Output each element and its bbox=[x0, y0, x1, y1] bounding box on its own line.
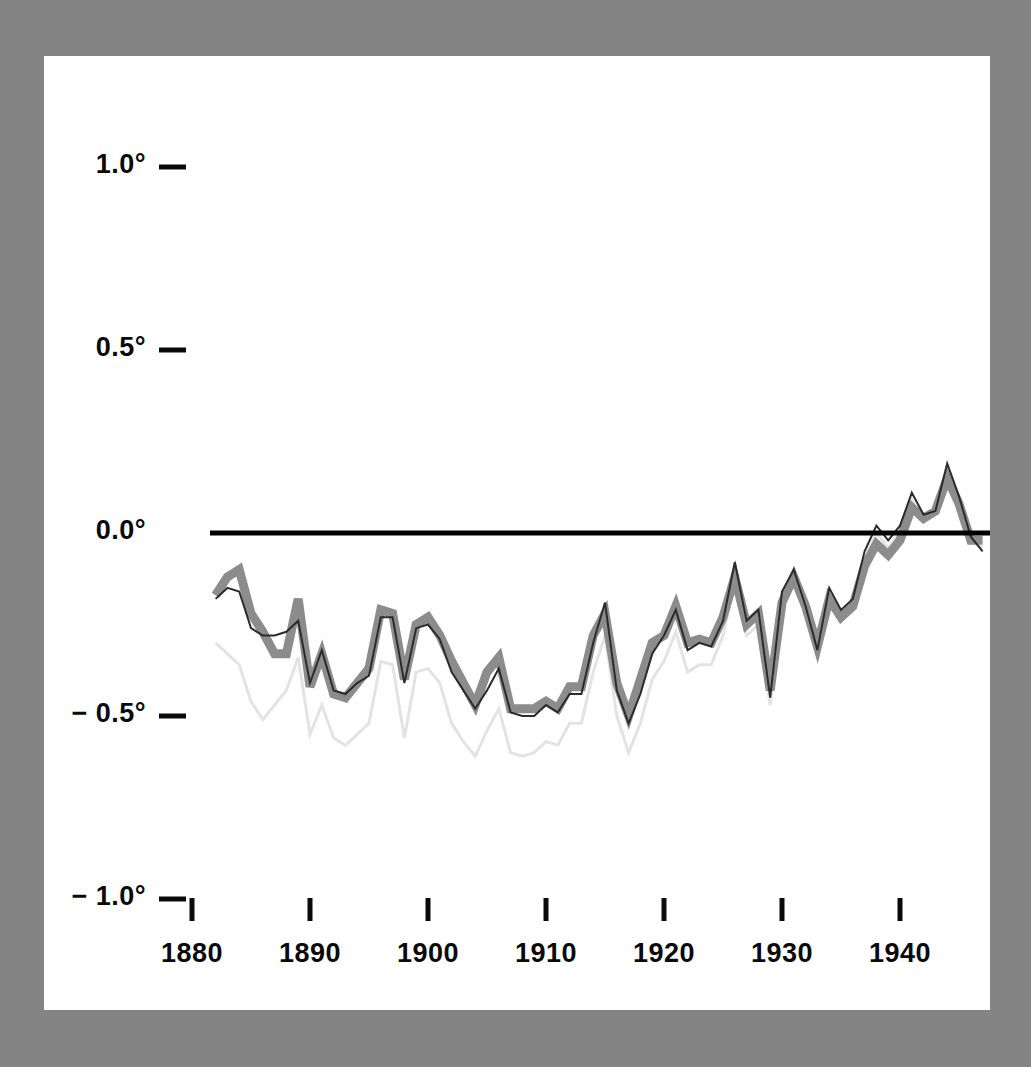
x-tick-label: 1880 bbox=[161, 938, 223, 969]
chart-figure: 1.0°0.5°0.0°− 0.5°− 1.0° 188018901900191… bbox=[0, 0, 1031, 1067]
x-tick-label: 1930 bbox=[751, 938, 813, 969]
y-axis-ticks bbox=[159, 167, 186, 899]
x-tick-label: 1910 bbox=[515, 938, 577, 969]
chart-plot-area bbox=[0, 0, 1031, 1067]
series-line bbox=[216, 471, 983, 756]
data-series-group bbox=[216, 463, 983, 756]
y-tick-label: − 1.0° bbox=[71, 881, 146, 912]
x-tick-label: 1900 bbox=[397, 938, 459, 969]
y-tick-label: 0.5° bbox=[96, 332, 146, 363]
y-tick-label: − 0.5° bbox=[71, 698, 146, 729]
x-tick-label: 1890 bbox=[279, 938, 341, 969]
y-tick-label: 0.0° bbox=[96, 515, 146, 546]
x-tick-label: 1920 bbox=[633, 938, 695, 969]
x-axis-ticks bbox=[192, 898, 900, 921]
y-tick-label: 1.0° bbox=[96, 149, 146, 180]
x-tick-label: 1940 bbox=[869, 938, 931, 969]
